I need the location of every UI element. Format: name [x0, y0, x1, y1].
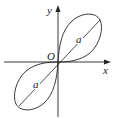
lobe-label-lower: a: [33, 78, 39, 90]
origin-label: O: [47, 50, 55, 62]
x-axis-label: x: [102, 64, 108, 76]
lemniscate-diagram: y x O a a: [0, 0, 115, 119]
lobe-label-upper: a: [76, 33, 82, 45]
y-axis-label: y: [46, 4, 52, 16]
diagonal-segment: [19, 20, 100, 106]
y-axis-arrow-icon: [56, 5, 61, 12]
